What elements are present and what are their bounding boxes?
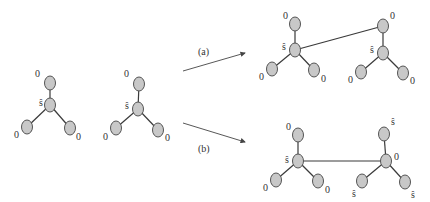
tree-node — [133, 102, 144, 116]
tree-node — [309, 63, 320, 77]
tree-node — [357, 174, 368, 188]
tree-node — [293, 154, 304, 168]
tree-node — [293, 128, 304, 142]
diagram-canvas: ŝ000 ŝ000 (a)ŝ000ŝ000 (b)ŝ0000ŝŝŝ — [0, 0, 430, 202]
tree-node — [153, 123, 164, 137]
tree-node — [290, 17, 301, 31]
tree-node — [271, 173, 282, 187]
node-label: 0 — [124, 68, 129, 79]
node-label: 0 — [259, 71, 264, 82]
node-label: ŝ — [411, 189, 415, 200]
input-tree-1: ŝ000 — [14, 68, 81, 142]
node-label: ŝ — [370, 44, 374, 55]
node-label: ŝ — [285, 154, 289, 165]
tree-node — [22, 120, 33, 134]
tree-node — [111, 121, 122, 135]
node-label: 0 — [286, 121, 291, 132]
arrow — [183, 53, 245, 71]
node-label: 0 — [263, 182, 268, 193]
tree-node — [267, 62, 278, 76]
tree-node — [381, 154, 392, 168]
operation-label: (b) — [198, 143, 210, 155]
tree-node — [313, 174, 324, 188]
node-label: 0 — [165, 132, 170, 143]
tree-node — [400, 175, 411, 189]
tree-node — [356, 65, 367, 79]
tree-node — [290, 43, 301, 57]
node-label: ŝ — [39, 97, 43, 108]
tree-node — [378, 46, 389, 60]
node-label: 0 — [103, 131, 108, 142]
node-label: ŝ — [282, 41, 286, 52]
tree-node — [134, 77, 145, 91]
node-label: ŝ — [125, 100, 129, 111]
arrow — [183, 123, 245, 142]
node-label: 0 — [283, 10, 288, 21]
tree-node — [398, 66, 409, 80]
tree-node — [378, 19, 389, 33]
node-label: 0 — [321, 73, 326, 84]
operation-label: (a) — [198, 46, 209, 58]
node-label: 0 — [394, 151, 399, 162]
node-label: 0 — [14, 129, 19, 140]
node-label: 0 — [35, 68, 40, 79]
node-label: ŝ — [391, 116, 395, 127]
tree-node — [45, 76, 56, 90]
node-label: 0 — [76, 131, 81, 142]
node-label: 0 — [410, 75, 415, 86]
node-label: 0 — [325, 184, 330, 195]
tree-node — [45, 98, 56, 112]
node-label: ŝ — [352, 188, 356, 199]
operation-a: (a)ŝ000ŝ000 — [183, 10, 415, 86]
tree-node — [379, 127, 390, 141]
tree-merge-diagram: ŝ000 ŝ000 (a)ŝ000ŝ000 (b)ŝ0000ŝŝŝ — [0, 0, 430, 202]
operation-b: (b)ŝ0000ŝŝŝ — [183, 116, 415, 200]
node-label: 0 — [390, 10, 395, 21]
tree-node — [65, 121, 76, 135]
input-tree-2: ŝ000 — [103, 68, 170, 143]
node-label: 0 — [348, 74, 353, 85]
